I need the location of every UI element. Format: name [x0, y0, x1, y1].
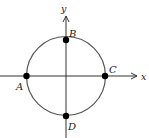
point-label-A: A [15, 81, 23, 92]
circle-diagram: x y A B C D [0, 0, 149, 138]
x-axis-label: x [141, 71, 147, 82]
point-label-D: D [67, 121, 76, 132]
point-label-C: C [109, 64, 117, 75]
y-axis-label: y [60, 3, 67, 14]
point-B: B [63, 28, 77, 43]
point-label-B: B [68, 28, 76, 39]
